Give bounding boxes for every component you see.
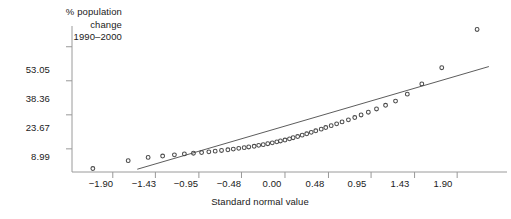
data-point-9 <box>213 149 217 153</box>
data-point-42 <box>394 99 398 103</box>
chart-container: % population change 1990–2000 53.05 38.3… <box>0 0 511 219</box>
plot-area <box>0 0 511 219</box>
data-point-1 <box>126 159 130 163</box>
y-axis-ticks <box>66 47 72 149</box>
data-point-3 <box>161 154 165 158</box>
data-point-45 <box>440 66 444 70</box>
data-point-20 <box>270 141 274 145</box>
data-point-46 <box>475 28 479 32</box>
data-point-38 <box>359 113 363 117</box>
data-point-8 <box>207 150 211 154</box>
data-point-29 <box>309 130 313 134</box>
data-point-31 <box>319 127 323 131</box>
data-point-39 <box>366 110 370 114</box>
data-point-19 <box>266 142 270 146</box>
normal-reference-line <box>137 67 489 170</box>
data-point-26 <box>296 135 300 139</box>
data-point-44 <box>420 82 424 86</box>
data-point-7 <box>200 151 204 155</box>
data-point-43 <box>405 92 409 96</box>
data-point-13 <box>237 146 241 150</box>
data-point-12 <box>231 147 235 151</box>
data-point-2 <box>146 156 150 160</box>
data-points <box>91 28 479 171</box>
data-point-41 <box>384 103 388 107</box>
data-point-30 <box>314 129 318 133</box>
data-point-18 <box>261 143 265 147</box>
data-point-32 <box>324 126 328 130</box>
reference-line <box>137 67 489 170</box>
data-point-11 <box>226 148 230 152</box>
data-point-27 <box>300 133 304 137</box>
data-point-15 <box>247 145 251 149</box>
data-point-4 <box>173 153 177 157</box>
data-point-28 <box>305 132 309 136</box>
data-point-40 <box>375 107 379 111</box>
data-point-33 <box>329 124 333 128</box>
data-point-25 <box>291 136 295 140</box>
data-point-0 <box>91 167 95 171</box>
data-point-10 <box>220 149 224 153</box>
data-point-35 <box>340 120 344 124</box>
x-axis-ticks <box>113 172 457 178</box>
data-point-14 <box>242 146 246 150</box>
data-point-36 <box>347 118 351 122</box>
data-point-34 <box>335 122 339 126</box>
data-point-23 <box>283 138 287 142</box>
axes <box>72 26 507 172</box>
data-point-16 <box>252 144 256 148</box>
data-point-37 <box>353 116 357 120</box>
data-point-22 <box>279 139 283 143</box>
data-point-17 <box>257 143 261 147</box>
